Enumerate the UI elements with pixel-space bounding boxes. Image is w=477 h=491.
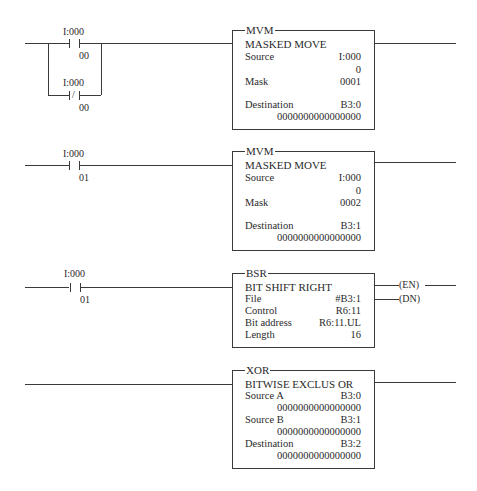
rung-1-contact-2-address: I:000 [63,77,84,88]
rung-2-contact-1-bit: 01 [79,172,89,183]
rung-3-en-output: (EN) [399,279,419,290]
rung-3-wire-main [80,287,232,288]
instruction-mnemonic: XOR [245,364,270,376]
instruction-description: MASKED MOVE [245,38,327,50]
rung-3-contact-1-address: I:000 [64,268,85,279]
rung-1-contact-1-address: I:000 [63,26,84,37]
rung-2-contact-1-address: I:000 [63,148,84,159]
rung-1-wire-left [25,43,69,44]
rung-2-wire-main [79,165,232,166]
instruction-mnemonic: BSR [245,267,268,279]
rung-3-wire-left [25,287,69,288]
rung-4-xor-block[interactable]: XOR BITWISE EXCLUS OR Source A B3:0 0000… [232,370,375,469]
instruction-description: MASKED MOVE [245,159,327,171]
rung-1-branch-wire-left [48,95,69,96]
rung-1-branch-left [48,43,49,95]
rung-3-dn-output: (DN) [399,293,420,304]
instruction-description: BITWISE EXCLUS OR [245,378,353,390]
rung-1-contact-1-bit: 00 [79,50,89,61]
xio-slash: / [72,89,75,100]
rung-1-branch-right [101,43,102,95]
rung-1-branch-wire-right [79,95,101,96]
rung-1-mvm-block[interactable]: MVM MASKED MOVE Source I:000 0 Mask 0001… [232,30,375,130]
rung-4-wire-left [25,384,232,385]
instruction-description: BIT SHIFT RIGHT [245,281,332,293]
rung-3-contact-1-bit: 01 [80,294,90,305]
instruction-mnemonic: MVM [245,145,275,157]
rung-2-wire-left [25,165,69,166]
rung-2-mvm-block[interactable]: MVM MASKED MOVE Source I:000 0 Mask 0002… [232,151,375,251]
rung-3-dn-wire [375,299,399,300]
rung-4-wire-right [375,382,456,383]
rung-3-en-wire [375,285,399,286]
instruction-mnemonic: MVM [245,24,275,36]
rung-3-bsr-block[interactable]: BSR BIT SHIFT RIGHT File #B3:1 Control R… [232,273,375,348]
rung-1-wire-right [375,43,456,44]
rung-3-en-wire-right [425,285,456,286]
rung-2-wire-right [375,162,456,163]
rung-1-contact-2-bit: 00 [79,102,89,113]
